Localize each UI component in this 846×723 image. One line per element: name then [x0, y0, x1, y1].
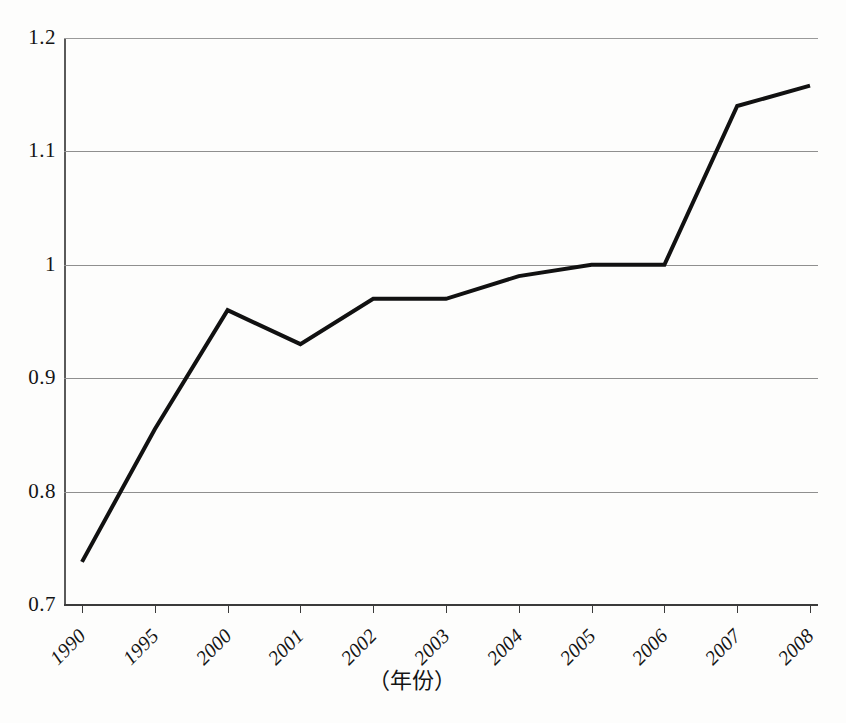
y-axis-tick-label: 0.9: [0, 367, 56, 388]
series-line: [64, 38, 818, 605]
x-axis-title-text: （年份）: [368, 668, 456, 694]
chart-figure: 1.21.110.90.80.7 19901995200020012002200…: [0, 0, 846, 723]
y-axis-tick-label: 0.8: [0, 481, 56, 502]
x-axis-tick-label: 2001: [264, 625, 307, 668]
y-axis-tick-label: 0.7: [0, 594, 56, 615]
x-axis-tick-label: 2006: [628, 625, 671, 668]
y-axis-tick-label: 1.1: [0, 140, 56, 161]
x-axis-tick-label: 2008: [774, 625, 817, 668]
y-axis-tick-label: 1.2: [0, 27, 56, 48]
x-axis-tick-label: 2000: [192, 625, 235, 668]
y-axis-tick-labels: 1.21.110.90.80.7: [0, 38, 56, 605]
x-axis-tick-label: 2007: [701, 625, 744, 668]
x-axis-tick-label: 2004: [483, 625, 526, 668]
x-axis-tick-label: 1990: [46, 625, 89, 668]
x-axis-tick-label: 2005: [556, 625, 599, 668]
plot-area: [64, 38, 818, 605]
x-axis-tick-label: 1995: [119, 625, 162, 668]
x-axis-tick-label: 2003: [410, 625, 453, 668]
y-axis-tick-label: 1: [0, 254, 56, 275]
x-axis-title: （年份）: [0, 668, 846, 694]
x-axis-tick-label: 2002: [337, 625, 380, 668]
